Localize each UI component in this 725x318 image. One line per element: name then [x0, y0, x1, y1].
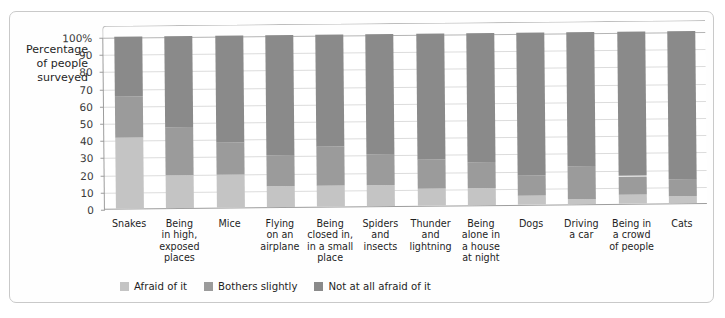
bar-segment[interactable]: [669, 179, 697, 196]
bar-segment[interactable]: [315, 34, 344, 146]
y-axis-tick-label: 60: [80, 102, 93, 112]
x-axis-label-line: a crowd: [601, 229, 663, 240]
x-axis-label-line: a house: [450, 241, 512, 252]
y-axis-tickmark: [100, 124, 104, 125]
bar-column[interactable]: [215, 36, 245, 207]
legend-item[interactable]: Not at all afraid of it: [314, 281, 430, 292]
y-axis-tickmark: [99, 55, 103, 56]
y-axis-tickmark: [100, 158, 104, 159]
bar-segment[interactable]: [115, 138, 144, 209]
legend-item[interactable]: Afraid of it: [120, 281, 187, 292]
bar-segment[interactable]: [367, 185, 395, 206]
bar-column[interactable]: [114, 37, 144, 208]
bar-segment[interactable]: [165, 36, 194, 127]
bar-segment[interactable]: [567, 32, 596, 166]
y-axis-tick-label: 10: [80, 188, 93, 198]
bar-segment[interactable]: [265, 35, 294, 156]
x-axis-label-line: in high,: [148, 229, 210, 240]
bar-column[interactable]: [466, 34, 496, 205]
y-axis-tick-label: 40: [80, 136, 93, 146]
x-axis-label-line: place: [299, 252, 361, 263]
y-axis-tick-label: 50: [80, 119, 93, 129]
bar-segment[interactable]: [166, 127, 194, 175]
y-axis-tickmark: [101, 193, 105, 194]
stacked-bar-chart: Percentageof peoplesurveyed 100%90807060…: [0, 0, 725, 318]
y-axis-tickmark: [100, 141, 104, 142]
bar-segment[interactable]: [115, 97, 143, 139]
x-axis-label-line: Cats: [651, 218, 713, 229]
y-axis-tickmark: [100, 107, 104, 108]
bar-segment[interactable]: [267, 186, 295, 207]
y-axis-tick-label: 80: [79, 67, 92, 77]
bar-segment[interactable]: [568, 166, 596, 199]
legend-label: Afraid of it: [134, 281, 187, 292]
y-axis-tick-label: 20: [80, 170, 93, 180]
bar-segment[interactable]: [568, 199, 596, 204]
bar-segment[interactable]: [466, 33, 495, 162]
bar-segment[interactable]: [317, 186, 345, 207]
bar-segment[interactable]: [669, 196, 697, 203]
y-axis-tick-label: 30: [80, 153, 93, 163]
y-axis-tickmark: [99, 38, 103, 39]
bar-segment[interactable]: [667, 31, 696, 179]
y-axis-tickmark: [101, 210, 105, 211]
y-axis-tickmark: [101, 176, 105, 177]
y-axis-tick-label: 100%: [62, 33, 92, 43]
bar-segment[interactable]: [367, 154, 395, 185]
bar-column[interactable]: [315, 35, 345, 206]
bar-segment[interactable]: [114, 36, 143, 96]
bar-column[interactable]: [567, 33, 597, 204]
legend-label: Bothers slightly: [218, 281, 297, 292]
bar-segment[interactable]: [216, 175, 244, 208]
chart-legend: Afraid of itBothers slightlyNot at all a…: [120, 281, 431, 292]
bar-column[interactable]: [416, 35, 446, 206]
bar-column[interactable]: [667, 32, 697, 203]
y-axis-tick-labels: 100%9080706050403020100: [44, 38, 98, 210]
plot-area: [102, 32, 707, 210]
y-axis-tick-label: 90: [79, 50, 92, 60]
y-axis-tick-label: 70: [79, 84, 92, 94]
bar-column[interactable]: [366, 35, 396, 206]
bar-segment[interactable]: [266, 155, 294, 186]
y-axis-tickmark: [100, 90, 104, 91]
bar-segment[interactable]: [467, 162, 495, 188]
legend-item[interactable]: Bothers slightly: [204, 281, 297, 292]
x-axis-category-labels: SnakesBeingin high,exposedplacesMiceFlyi…: [82, 218, 707, 280]
x-axis-label-line: alone in: [450, 229, 512, 240]
x-axis-label-line: of people: [601, 241, 663, 252]
bar-column[interactable]: [265, 36, 295, 207]
bar-segment[interactable]: [617, 32, 646, 177]
bar-segment[interactable]: [468, 188, 496, 205]
bar-segment[interactable]: [416, 34, 445, 160]
bar-segment[interactable]: [518, 196, 546, 205]
legend-swatch: [204, 282, 213, 291]
x-axis-label-line: at night: [450, 252, 512, 263]
bar-column[interactable]: [516, 34, 546, 205]
legend-swatch: [120, 282, 129, 291]
x-axis-label-line: places: [148, 252, 210, 263]
bar-column[interactable]: [617, 33, 647, 204]
legend-swatch: [314, 282, 323, 291]
bar-column[interactable]: [165, 37, 195, 208]
bar-segment[interactable]: [366, 34, 395, 155]
bar-series-group: [103, 32, 707, 209]
bar-segment[interactable]: [518, 175, 546, 196]
y-axis-tick-label: 0: [87, 205, 94, 215]
bar-segment[interactable]: [417, 188, 445, 205]
bar-segment[interactable]: [516, 33, 545, 176]
x-axis-category-label: Cats: [651, 218, 713, 229]
bar-segment[interactable]: [216, 142, 244, 175]
y-axis-tickmark: [100, 72, 104, 73]
bar-segment[interactable]: [618, 176, 646, 195]
legend-label: Not at all afraid of it: [328, 281, 430, 292]
bar-segment[interactable]: [618, 195, 646, 204]
bar-segment[interactable]: [215, 35, 244, 142]
x-axis-label-line: exposed: [148, 241, 210, 252]
bar-segment[interactable]: [417, 159, 445, 189]
bar-segment[interactable]: [166, 175, 194, 208]
plot-wrapper: 100%9080706050403020100: [80, 20, 707, 216]
bar-segment[interactable]: [316, 146, 344, 186]
